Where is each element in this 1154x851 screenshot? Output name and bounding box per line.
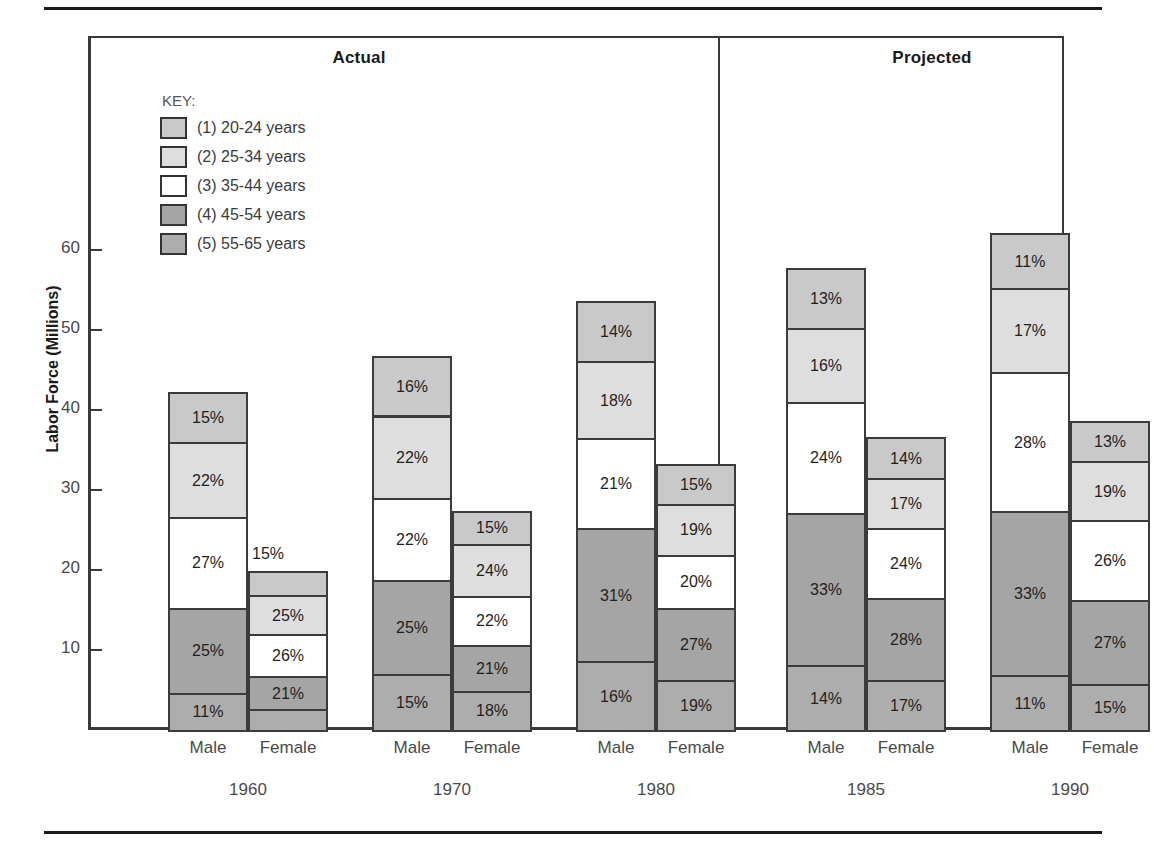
x-axis-gender-label: Female — [1065, 738, 1154, 758]
bar-segment: 13% — [1070, 421, 1150, 463]
y-axis-tick — [88, 409, 102, 411]
x-axis-gender-label: Female — [861, 738, 951, 758]
x-axis-year-label: 1980 — [596, 780, 716, 800]
legend-item-5: (5) 55-65 years — [160, 229, 306, 258]
x-axis-year-label: 1960 — [188, 780, 308, 800]
y-axis-tick-label: 10 — [34, 638, 80, 658]
legend-swatch-icon — [160, 204, 187, 226]
x-axis-gender-label: Male — [163, 738, 253, 758]
y-axis-tick-label: 40 — [34, 398, 80, 418]
legend-item-label: (5) 55-65 years — [197, 235, 306, 253]
top-rule — [44, 7, 1102, 10]
legend-swatch-icon — [160, 117, 187, 139]
y-axis-tick — [88, 329, 102, 331]
legend-item-label: (3) 35-44 years — [197, 177, 306, 195]
x-axis-gender-label: Male — [571, 738, 661, 758]
y-axis-tick — [88, 649, 102, 651]
y-axis-tick — [88, 489, 102, 491]
x-axis-gender-label: Male — [367, 738, 457, 758]
y-axis-tick — [88, 569, 102, 571]
x-axis-year-label: 1985 — [806, 780, 926, 800]
legend: KEY: (1) 20-24 years(2) 25-34 years(3) 3… — [160, 92, 306, 258]
legend-swatch-icon — [160, 233, 187, 255]
bottom-rule — [44, 831, 1102, 834]
y-axis-tick-label: 20 — [34, 558, 80, 578]
legend-item-label: (2) 25-34 years — [197, 148, 306, 166]
x-axis-year-label: 1970 — [392, 780, 512, 800]
x-axis-gender-label: Female — [447, 738, 537, 758]
legend-item-2: (2) 25-34 years — [160, 142, 306, 171]
x-axis-gender-label: Male — [781, 738, 871, 758]
legend-swatch-icon — [160, 146, 187, 168]
section-title-projected: Projected — [718, 48, 1146, 68]
section-title-actual: Actual — [0, 48, 718, 68]
bar-segment: 15% — [1070, 684, 1150, 732]
x-axis-year-label: 1990 — [1010, 780, 1130, 800]
actual-projected-divider — [718, 36, 720, 730]
legend-item-4: (4) 45-54 years — [160, 200, 306, 229]
legend-title: KEY: — [162, 92, 306, 109]
y-axis-tick-label: 30 — [34, 478, 80, 498]
legend-item-3: (3) 35-44 years — [160, 171, 306, 200]
y-axis-tick-label: 60 — [34, 238, 80, 258]
legend-item-label: (4) 45-54 years — [197, 206, 306, 224]
bar-segment: 27% — [1070, 600, 1150, 685]
y-axis-tick-label: 50 — [34, 318, 80, 338]
x-axis-gender-label: Female — [243, 738, 333, 758]
legend-swatch-icon — [160, 175, 187, 197]
bar-segment: 19% — [1070, 461, 1150, 522]
bar-1990-female: 15%27%26%19%13% — [1070, 0, 1150, 851]
legend-item-label: (1) 20-24 years — [197, 119, 306, 137]
y-axis-tick — [88, 249, 102, 251]
x-axis-gender-label: Female — [651, 738, 741, 758]
y-axis-title: Labor Force (Millions) — [44, 239, 62, 499]
legend-item-1: (1) 20-24 years — [160, 113, 306, 142]
bar-segment: 26% — [1070, 520, 1150, 602]
x-axis-gender-label: Male — [985, 738, 1075, 758]
